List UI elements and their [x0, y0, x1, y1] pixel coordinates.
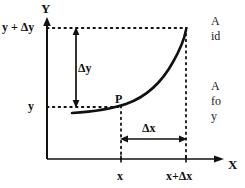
margin-text-bottom: A fo y — [211, 79, 221, 124]
margin-text-bottom-line-3: y — [211, 109, 221, 124]
margin-text-top-line-2: id — [211, 29, 220, 44]
margin-text-top: A id — [211, 14, 220, 44]
point-p-label: P — [115, 93, 122, 105]
y-plus-delta-y-label: y + Δy — [2, 21, 34, 33]
x-axis-label: X — [228, 158, 237, 171]
y-value-label: y — [28, 100, 34, 112]
y-axis-group — [43, 17, 51, 159]
margin-text-bottom-line-2: fo — [211, 94, 221, 109]
delta-x-measure-arrow — [120, 136, 187, 143]
x-axis-group — [47, 155, 224, 162]
margin-text-bottom-line-1: A — [211, 79, 221, 94]
y-axis-arrowhead-icon — [43, 17, 51, 26]
figure-page: Y X y + Δy y Δy Δx P x x+Δx A id A fo y — [0, 0, 245, 188]
delta-x-arrowhead-right-icon — [179, 136, 187, 143]
margin-text-top-line-1: A — [211, 14, 220, 29]
delta-y-label: Δy — [78, 62, 92, 74]
math-diagram-canvas — [0, 0, 245, 188]
y-axis-label: Y — [41, 2, 50, 15]
x-axis-arrowhead-icon — [214, 155, 224, 162]
x-plus-delta-x-tick-label: x+Δx — [166, 170, 192, 182]
x-tick-label: x — [117, 170, 123, 182]
delta-x-label: Δx — [142, 122, 156, 134]
